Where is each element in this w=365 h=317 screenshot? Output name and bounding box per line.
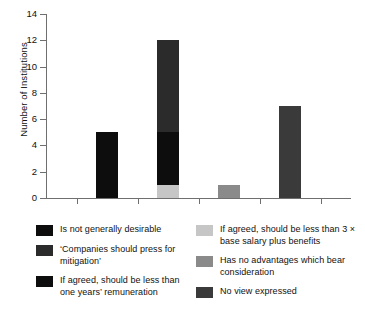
- bar-2: [218, 185, 240, 198]
- plot-area: Number of Institutions 14121086420: [0, 6, 365, 216]
- chart-legend: Is not generally desirable‘Companies sho…: [0, 224, 365, 317]
- y-tick-12: [40, 40, 46, 41]
- y-tick-label-8: 8: [32, 88, 37, 98]
- legend-item-label: Is not generally desirable: [60, 224, 161, 236]
- y-tick-label-4: 4: [32, 141, 37, 151]
- y-axis-label: Number of Institutions: [18, 5, 29, 175]
- bar-2-segment-0: [218, 185, 240, 198]
- legend-item: If agreed, should be less than one years…: [36, 275, 196, 298]
- legend-column-right: If agreed, should be less than 3 × base …: [196, 224, 365, 306]
- y-tick-label-6: 6: [32, 114, 37, 124]
- x-tick-2: [199, 199, 200, 204]
- bar-chart-figure: Number of Institutions 14121086420 Is no…: [0, 0, 365, 317]
- y-axis-line: [46, 14, 47, 199]
- x-tick-1: [138, 199, 139, 204]
- y-tick-label-0: 0: [32, 193, 37, 203]
- bar-1-segment-2: [157, 40, 179, 132]
- legend-item: ‘Companies should press for mitigation’: [36, 244, 196, 267]
- y-tick-2: [40, 172, 46, 173]
- bar-0: [96, 132, 118, 198]
- y-tick-label-2: 2: [32, 167, 37, 177]
- legend-swatch-icon: [36, 245, 53, 256]
- legend-swatch-icon: [196, 256, 213, 267]
- legend-item-label: No view expressed: [220, 286, 297, 298]
- legend-item-label: If agreed, should be less than one years…: [60, 275, 196, 298]
- y-tick-0: [40, 198, 46, 199]
- y-tick-label-14: 14: [26, 9, 37, 19]
- legend-item: If agreed, should be less than 3 × base …: [196, 224, 365, 247]
- bar-3-segment-0: [279, 106, 301, 198]
- bar-3: [279, 106, 301, 198]
- y-tick-14: [40, 14, 46, 15]
- legend-column-left: Is not generally desirable‘Companies sho…: [36, 224, 196, 306]
- legend-item-label: ‘Companies should press for mitigation’: [60, 244, 196, 267]
- y-tick-label-12: 12: [26, 36, 37, 46]
- legend-swatch-icon: [36, 225, 53, 236]
- bar-0-segment-0: [96, 132, 118, 198]
- bar-1-segment-0: [157, 185, 179, 198]
- legend-item: No view expressed: [196, 286, 365, 298]
- x-tick-0: [77, 199, 78, 204]
- bar-1: [157, 40, 179, 198]
- y-tick-10: [40, 67, 46, 68]
- axis-area: 14121086420: [46, 14, 351, 199]
- x-tick-4: [321, 199, 322, 204]
- y-tick-6: [40, 119, 46, 120]
- x-tick-3: [260, 199, 261, 204]
- legend-item: Is not generally desirable: [36, 224, 196, 236]
- legend-item: Has no advantages which bear considerati…: [196, 255, 365, 278]
- y-tick-label-10: 10: [26, 62, 37, 72]
- legend-item-label: Has no advantages which bear considerati…: [220, 255, 365, 278]
- legend-item-label: If agreed, should be less than 3 × base …: [220, 224, 365, 247]
- legend-swatch-icon: [36, 276, 53, 287]
- y-tick-4: [40, 145, 46, 146]
- y-tick-8: [40, 93, 46, 94]
- legend-swatch-icon: [196, 287, 213, 298]
- legend-swatch-icon: [196, 225, 213, 236]
- bar-1-segment-1: [157, 132, 179, 185]
